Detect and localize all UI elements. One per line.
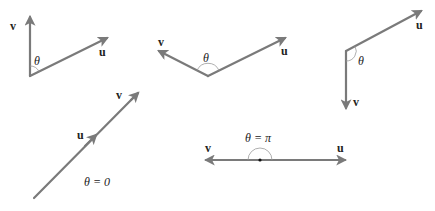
panel-antiparallel: v u θ = π (205, 131, 345, 162)
vector-u-arrow (346, 11, 421, 51)
v-label: v (353, 95, 359, 109)
vector-u-arrow (30, 38, 107, 76)
v-label: v (116, 88, 122, 102)
u-label: u (99, 45, 106, 59)
vector-v-arrow (131, 93, 138, 100)
u-label: u (281, 44, 288, 58)
theta-label: θ (34, 54, 40, 68)
theta-label: θ = 0 (84, 175, 110, 189)
vector-v-arrow (159, 51, 208, 76)
panel-obtuse: v u θ (158, 35, 288, 76)
panel-acute: v u θ (10, 17, 107, 76)
theta-label: θ (358, 54, 364, 68)
angle-arc (248, 148, 272, 160)
v-label: v (10, 19, 16, 33)
u-label: u (416, 18, 423, 32)
vector-u-arrow (85, 135, 96, 146)
theta-label: θ = π (245, 131, 272, 145)
v-label: v (158, 35, 164, 49)
vector-angle-diagram: v u θ v u θ u v θ v u θ (0, 0, 435, 211)
v-label: v (205, 141, 211, 155)
u-label: u (337, 141, 344, 155)
diagram-svg: v u θ v u θ u v θ v u θ (0, 0, 435, 211)
theta-label: θ (203, 51, 209, 65)
vector-u-arrow (208, 38, 285, 76)
origin-point (258, 158, 261, 161)
u-label: u (77, 128, 84, 142)
panel-large-obtuse: u v θ (346, 11, 423, 109)
panel-parallel: v u θ = 0 (34, 88, 138, 198)
